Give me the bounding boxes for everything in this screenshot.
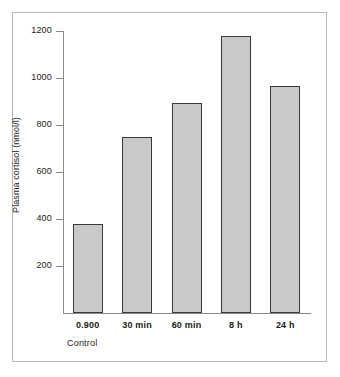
y-axis-tick-mark	[56, 31, 63, 32]
bar	[172, 103, 202, 313]
y-axis-tick-label-text: 400	[12, 213, 52, 223]
control-annotation-label: Control	[67, 338, 97, 348]
bar	[221, 36, 251, 313]
y-axis-tick-mark	[56, 266, 63, 267]
y-axis-tick-label-text: 200	[12, 260, 52, 270]
y-axis-tick-label: 200	[8, 260, 52, 272]
bar	[122, 137, 152, 313]
bar	[270, 86, 300, 313]
y-axis-tick-mark	[56, 172, 63, 173]
chart-figure: Plasma cortisol (nmol/l) 200400600800100…	[0, 0, 340, 377]
x-axis-tick-label: 24 h	[255, 320, 315, 330]
y-axis-tick-mark	[56, 125, 63, 126]
y-axis-tick-label: 800	[8, 119, 52, 131]
y-axis-tick-label: 1200	[8, 25, 52, 37]
y-axis-tick-label: 600	[8, 166, 52, 178]
x-axis-line	[63, 313, 311, 314]
y-axis-tick-label-text: 1200	[12, 25, 52, 35]
y-axis-tick-label-text: 1000	[12, 72, 52, 82]
y-axis-tick-label-text: 800	[12, 119, 52, 129]
y-axis-tick-mark	[56, 78, 63, 79]
plot-area	[63, 31, 310, 313]
y-axis-tick-label: 400	[8, 213, 52, 225]
y-axis-tick-mark	[56, 219, 63, 220]
y-axis-tick-label: 1000	[8, 72, 52, 84]
bar	[73, 224, 103, 313]
y-axis-tick-label-text: 600	[12, 166, 52, 176]
